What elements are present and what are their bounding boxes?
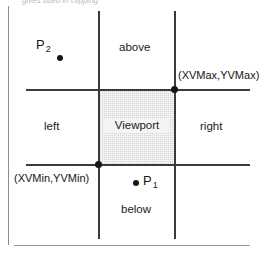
point-label-p2-base: P (36, 37, 45, 52)
clip-line-y-min (26, 164, 250, 166)
viewport-clipping-diagram: gives used in clipping P2 P1 (XVMax,YVMa… (0, 0, 270, 257)
point-label-p1-base: P (143, 173, 152, 188)
point-label-p1: P1 (143, 174, 157, 189)
clip-line-x-min (98, 11, 100, 239)
corner-dot-min (95, 161, 102, 168)
coordinate-label-max: (XVMax,YVMax) (178, 69, 259, 81)
coordinate-label-min: (XVMin,YVMin) (14, 172, 89, 184)
point-label-p2: P2 (36, 38, 50, 53)
page-border-bottom-rule (14, 245, 250, 246)
header-fragment-text: gives used in clipping (22, 0, 222, 5)
region-label-left: left (44, 120, 59, 133)
point-dot-p2 (57, 55, 63, 61)
page-border-left-rule (8, 6, 9, 245)
region-label-below: below (121, 203, 151, 216)
point-label-p1-subscript: 1 (153, 180, 158, 190)
region-label-above: above (119, 41, 150, 54)
viewport-caption-label: Viewport (104, 118, 170, 133)
corner-dot-max (171, 86, 178, 93)
point-label-p2-subscript: 2 (46, 44, 51, 54)
point-dot-p1 (133, 180, 139, 186)
region-label-right: right (200, 120, 222, 133)
clip-line-x-max (174, 11, 176, 239)
clip-line-y-max (26, 89, 250, 91)
